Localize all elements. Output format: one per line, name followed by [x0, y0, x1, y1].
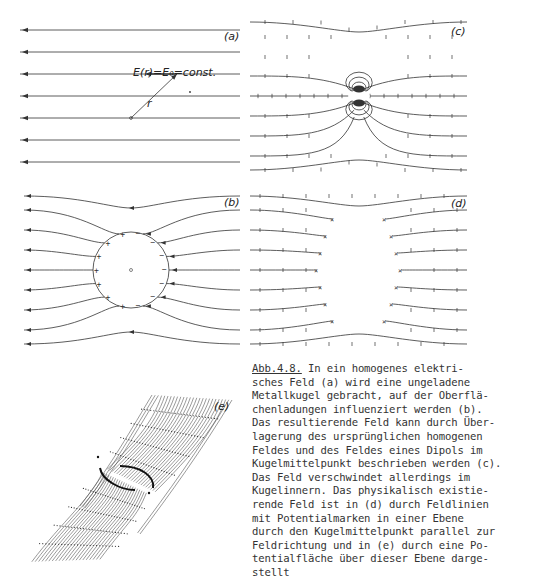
caption-line: Das Feld verschwindet allerdings im	[252, 471, 532, 485]
potential-dot	[135, 461, 136, 462]
potential-dot	[92, 529, 93, 530]
field-line	[24, 230, 104, 243]
field-line	[250, 103, 354, 116]
field-line	[158, 297, 240, 310]
potential-dot	[67, 544, 68, 545]
potential-dot	[59, 525, 60, 526]
field-line	[392, 304, 467, 310]
potential-dot	[71, 527, 72, 528]
potential-dot	[169, 451, 170, 452]
arrowhead-icon	[22, 72, 28, 77]
field-line	[250, 287, 321, 290]
arrowhead-icon	[22, 160, 28, 165]
potential-dot	[165, 412, 166, 413]
panel-label-e: (e)	[214, 400, 229, 413]
potential-dot	[156, 447, 157, 448]
potential-dot	[211, 417, 212, 418]
potential-dot	[194, 435, 195, 436]
potential-dot	[208, 417, 209, 418]
potential-dot	[115, 498, 116, 499]
potential-dot	[127, 502, 128, 503]
positive-charge: +	[94, 266, 99, 275]
field-line	[397, 287, 467, 290]
potential-dot	[182, 433, 183, 434]
potential-dot	[124, 518, 125, 519]
endpoint-mark: ×	[318, 284, 322, 292]
caption-line: tentialfläche über dieser Ebene darge-	[252, 552, 532, 566]
potential-dot	[183, 454, 184, 455]
potential-dot	[177, 432, 178, 433]
field-line	[24, 297, 104, 310]
potential-dot	[202, 416, 203, 417]
field-line	[250, 321, 333, 330]
potential-dot	[68, 506, 69, 507]
potential-dot	[150, 445, 151, 446]
potential-dot	[39, 543, 40, 544]
potential-dot	[166, 472, 167, 473]
field-line	[364, 76, 467, 89]
potential-dot	[61, 544, 62, 545]
potential-dot	[147, 445, 148, 446]
field-line	[250, 196, 467, 206]
potential-dot	[77, 527, 78, 528]
potential-dot	[99, 545, 100, 546]
potential-dot	[86, 528, 87, 529]
dot-marker	[189, 91, 191, 93]
field-line	[24, 284, 96, 290]
potential-dot	[48, 543, 49, 544]
potential-dot	[141, 462, 142, 463]
arrowhead-icon	[26, 308, 31, 312]
surface-marker	[148, 492, 150, 494]
potential-dot	[136, 424, 137, 425]
potential-dot	[83, 545, 84, 546]
potential-dot	[58, 544, 59, 545]
endpoint-mark: ×	[330, 318, 334, 326]
endpoint-mark: ×	[330, 216, 334, 224]
potential-dot	[112, 531, 113, 532]
field-line	[364, 103, 467, 116]
potential-dot	[196, 416, 197, 417]
potential-dot	[77, 544, 78, 545]
surface-line	[129, 397, 191, 479]
potential-dot	[139, 506, 140, 507]
sphere-center	[130, 269, 133, 272]
potential-dot	[106, 531, 107, 532]
arrowhead-icon	[22, 28, 28, 33]
potential-dot	[105, 545, 106, 546]
caption-line: sches Feld (a) wird eine ungeladene	[252, 376, 532, 390]
surface-line	[155, 400, 225, 492]
potential-dot	[174, 475, 175, 476]
negative-charge: −	[159, 251, 164, 260]
endpoint-mark: ×	[318, 250, 322, 258]
potential-dot	[197, 436, 198, 437]
potential-dot	[145, 426, 146, 427]
potential-dot	[57, 525, 58, 526]
potential-dot	[144, 508, 145, 509]
positive-charge: +	[120, 302, 125, 311]
potential-dot	[82, 509, 83, 510]
surface-line	[146, 399, 213, 487]
potential-dot	[145, 444, 146, 445]
potential-dot	[190, 415, 191, 416]
panel-label-c: (c)	[451, 25, 466, 38]
surface-line	[153, 399, 223, 490]
arrowhead-icon	[26, 288, 31, 292]
positive-charge: +	[105, 293, 110, 302]
potential-dot	[95, 492, 96, 493]
field-line	[385, 321, 467, 330]
potential-dot	[185, 455, 186, 456]
endpoint-mark: ×	[323, 233, 327, 241]
potential-dot	[100, 513, 101, 514]
positive-charge: +	[97, 252, 102, 261]
potential-dot	[191, 435, 192, 436]
field-line	[166, 284, 240, 290]
potential-dot	[136, 506, 137, 507]
potential-dot	[120, 455, 121, 456]
potential-dot	[158, 448, 159, 449]
surface-line	[126, 397, 187, 478]
potential-dot	[102, 494, 103, 495]
potential-dot	[42, 543, 43, 544]
potential-dot	[181, 414, 182, 415]
field-line	[250, 160, 467, 170]
surface-line	[107, 396, 161, 470]
